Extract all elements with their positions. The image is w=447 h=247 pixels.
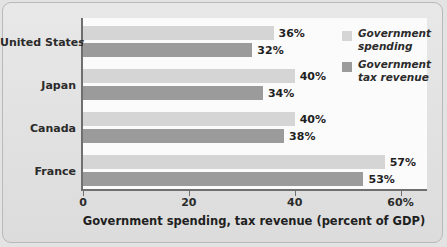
- legend-swatch-icon-spending: [342, 31, 352, 41]
- legend-swatch-icon-tax-revenue: [342, 62, 352, 72]
- bar-france-spending: [83, 155, 385, 169]
- x-axis-title: Government spending, tax revenue (percen…: [81, 214, 427, 228]
- bar-value-united-states-tax-revenue: 32%: [257, 44, 283, 57]
- category-label-france: France: [0, 165, 76, 178]
- bar-value-france-spending: 57%: [390, 156, 416, 169]
- legend-label: Government spending: [358, 27, 431, 53]
- bar-united-states-tax-revenue: [83, 43, 252, 57]
- bar-canada-spending: [83, 112, 295, 126]
- bar-value-canada-tax-revenue: 38%: [289, 130, 315, 143]
- bar-value-japan-tax-revenue: 34%: [268, 87, 294, 100]
- bar-value-united-states-spending: 36%: [279, 27, 305, 40]
- x-tick-label-60: 60%: [387, 196, 413, 209]
- bar-united-states-spending: [83, 26, 274, 40]
- bar-value-france-tax-revenue: 53%: [368, 173, 394, 186]
- bar-canada-tax-revenue: [83, 129, 284, 143]
- category-label-united-states: United States: [0, 36, 76, 49]
- chart-figure: 0204060% United StatesJapanCanadaFrance …: [0, 0, 447, 247]
- x-axis-line: [81, 189, 427, 191]
- category-label-canada: Canada: [0, 122, 76, 135]
- bar-japan-tax-revenue: [83, 86, 263, 100]
- bar-value-canada-spending: 40%: [300, 113, 326, 126]
- bar-france-tax-revenue: [83, 172, 363, 186]
- bar-value-japan-spending: 40%: [300, 70, 326, 83]
- legend-label: Government tax revenue: [358, 58, 431, 84]
- x-tick-label-40: 40: [287, 196, 302, 209]
- category-label-japan: Japan: [0, 79, 76, 92]
- bar-japan-spending: [83, 69, 295, 83]
- x-tick-label-20: 20: [181, 196, 196, 209]
- x-tick-label-0: 0: [79, 196, 87, 209]
